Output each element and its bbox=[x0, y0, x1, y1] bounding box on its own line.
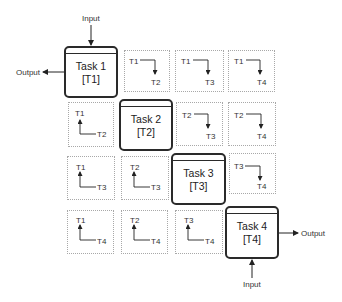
dep-bottom: T3 bbox=[151, 183, 160, 192]
dependency-t4-t3: T3 T4 bbox=[175, 210, 223, 254]
task-title: Task 4 bbox=[227, 220, 277, 233]
task-4-box[interactable]: Task 4 [T4] bbox=[225, 206, 279, 259]
dep-from: T1 bbox=[129, 57, 138, 66]
dep-to: T4 bbox=[257, 182, 266, 191]
top-input-label: Input bbox=[82, 14, 100, 23]
dep-top: T3 bbox=[184, 216, 193, 225]
dependency-arrows-layer bbox=[0, 0, 342, 302]
dependency-t3-t4: T3 T4 bbox=[229, 153, 276, 194]
dep-top: T2 bbox=[130, 163, 139, 172]
dependency-t3-t1: T1 T3 bbox=[67, 156, 115, 200]
bottom-input-label: Input bbox=[243, 280, 261, 289]
dep-from: T2 bbox=[234, 111, 243, 120]
task-header-divider bbox=[227, 213, 277, 214]
dep-from: T1 bbox=[181, 57, 190, 66]
task-title: Task 2 bbox=[121, 113, 171, 126]
dep-to: T3 bbox=[205, 78, 214, 87]
task-1-box[interactable]: Task 1 [T1] bbox=[64, 46, 118, 98]
dep-to: T2 bbox=[151, 78, 160, 87]
dependency-t4-t1: T1 T4 bbox=[67, 210, 114, 254]
dep-top: T1 bbox=[75, 109, 84, 118]
task-id: [T4] bbox=[227, 233, 277, 246]
dependency-t1-t3: T1 T3 bbox=[175, 50, 224, 92]
dep-to: T3 bbox=[206, 132, 215, 141]
task-header-divider bbox=[66, 53, 116, 54]
task-title: Task 3 bbox=[173, 167, 224, 180]
task-id: [T3] bbox=[173, 180, 224, 193]
dependency-t2-t4: T2 T4 bbox=[228, 102, 276, 146]
dep-bottom: T4 bbox=[151, 237, 160, 246]
dep-bottom: T4 bbox=[205, 237, 214, 246]
dep-top: T1 bbox=[76, 216, 85, 225]
task-title: Task 1 bbox=[66, 60, 116, 73]
task-header-divider bbox=[121, 106, 171, 107]
task-id: [T2] bbox=[121, 126, 171, 139]
dep-bottom: T2 bbox=[97, 130, 106, 139]
task-3-box[interactable]: Task 3 [T3] bbox=[171, 153, 226, 205]
arrows-layer bbox=[0, 0, 342, 302]
dep-bottom: T3 bbox=[97, 183, 106, 192]
dependency-t2-t3: T2 T3 bbox=[176, 102, 223, 146]
task-header-divider bbox=[173, 160, 224, 161]
dependency-t1-t2: T1 T2 bbox=[124, 50, 170, 92]
dependency-t2-t1: T1 T2 bbox=[68, 102, 114, 147]
dependency-t4-t2: T2 T4 bbox=[121, 210, 168, 254]
dependency-t3-t2: T2 T3 bbox=[121, 156, 169, 200]
dep-top: T1 bbox=[76, 163, 85, 172]
bottom-output-label: Output bbox=[301, 229, 325, 238]
dep-to: T4 bbox=[257, 132, 266, 141]
task-2-box[interactable]: Task 2 [T2] bbox=[119, 99, 173, 151]
dep-from: T2 bbox=[182, 111, 191, 120]
dep-from: T1 bbox=[234, 57, 243, 66]
top-output-label: Output bbox=[16, 68, 40, 77]
dependency-t1-t4: T1 T4 bbox=[228, 50, 275, 92]
dep-to: T4 bbox=[257, 78, 266, 87]
dep-from: T3 bbox=[234, 162, 243, 171]
dep-top: T2 bbox=[130, 216, 139, 225]
dep-bottom: T4 bbox=[97, 237, 106, 246]
task-id: [T1] bbox=[66, 73, 116, 86]
